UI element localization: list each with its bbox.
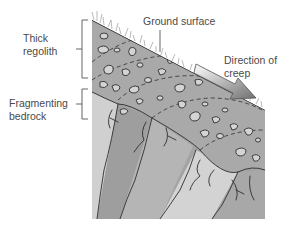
thick-regolith-label-line2: regolith bbox=[23, 45, 58, 57]
fragmenting-bedrock-label-line2: bedrock bbox=[9, 110, 47, 122]
soil-creep-diagram: Thick regolith Ground surface Direction … bbox=[0, 0, 292, 229]
fragmenting-bedrock-bracket bbox=[76, 89, 88, 119]
direction-of-creep-label-line2: creep bbox=[224, 67, 250, 79]
direction-of-creep-label-line1: Direction of bbox=[224, 54, 277, 66]
cross-section-block bbox=[92, 20, 267, 220]
ground-surface-label: Ground surface bbox=[143, 15, 216, 27]
thick-regolith-label-line1: Thick bbox=[23, 32, 49, 44]
fragmenting-bedrock-label-line1: Fragmenting bbox=[9, 97, 68, 109]
thick-regolith-bracket bbox=[76, 20, 88, 78]
